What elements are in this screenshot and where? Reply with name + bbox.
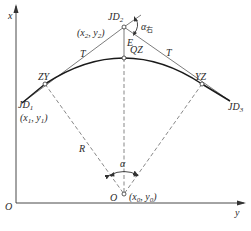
tangent-left-line bbox=[22, 27, 124, 103]
jd3-label: JD3 bbox=[228, 101, 244, 114]
tangent-right-line bbox=[124, 27, 230, 101]
radius-label: R bbox=[78, 143, 85, 154]
zy-point-icon bbox=[43, 82, 47, 86]
deflection-angle-label: α右 bbox=[141, 21, 153, 34]
tangent-left-label: T bbox=[80, 48, 87, 59]
jd1-coordinates: (x1, y1) bbox=[20, 112, 48, 125]
radius-lines bbox=[45, 58, 202, 194]
yz-label: YZ bbox=[195, 71, 207, 82]
deflection-angle-arrow-top-icon bbox=[134, 16, 138, 22]
diagram-svg: x y O JD2 (x2, y2) α右 bbox=[0, 0, 251, 231]
qz-label: QZ bbox=[130, 44, 143, 55]
jd2-point-icon bbox=[122, 25, 126, 29]
jd2-coordinates: (x2, y2) bbox=[77, 27, 105, 40]
center-label: O bbox=[110, 192, 117, 203]
jd1-label: JD1 bbox=[18, 99, 33, 112]
x-axis-label: x bbox=[7, 10, 13, 21]
central-angle-label: α bbox=[120, 158, 126, 169]
center-coordinates: (x0, y0) bbox=[129, 191, 157, 204]
center-point-icon bbox=[122, 192, 126, 196]
point-markers bbox=[43, 25, 204, 196]
y-axis-label: y bbox=[234, 207, 240, 218]
axes: x y O bbox=[5, 4, 246, 218]
labels: JD2 (x2, y2) α右 T T E QZ ZY YZ JD1 (x1, … bbox=[18, 11, 244, 204]
radius-right-dashed bbox=[124, 84, 202, 194]
y-axis-arrow-icon bbox=[237, 201, 246, 206]
radius-left-dashed bbox=[45, 84, 124, 194]
zy-label: ZY bbox=[38, 71, 51, 82]
tangent-right-label: T bbox=[166, 47, 173, 58]
jd2-label: JD2 bbox=[108, 11, 124, 24]
tangent-extension-line bbox=[124, 15, 141, 27]
qz-point-icon bbox=[122, 56, 126, 60]
yz-point-icon bbox=[200, 82, 204, 86]
x-axis-arrow-icon bbox=[14, 4, 19, 13]
origin-label: O bbox=[5, 201, 12, 212]
curve-diagram: x y O JD2 (x2, y2) α右 bbox=[0, 0, 251, 231]
